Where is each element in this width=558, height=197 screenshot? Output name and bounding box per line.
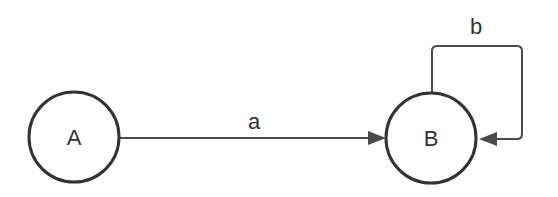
- edge-a-arrowhead-icon: [368, 131, 386, 145]
- node-b-label: B: [424, 126, 439, 151]
- node-a-label: A: [67, 125, 82, 150]
- edge-a: a: [120, 109, 386, 145]
- edge-b-arrowhead-icon: [479, 132, 497, 146]
- node-a: A: [29, 92, 119, 182]
- node-b: B: [386, 93, 476, 183]
- edge-a-label: a: [248, 109, 261, 134]
- state-diagram: a b A B: [0, 0, 558, 197]
- edge-b-label: b: [470, 14, 482, 39]
